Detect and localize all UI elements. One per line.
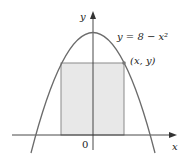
point-label: (x, y) <box>130 55 156 66</box>
y-axis-arrow-icon <box>90 11 96 19</box>
x-axis-label: x <box>172 141 178 152</box>
curve-label: y = 8 − x² <box>116 31 168 42</box>
point-marker <box>122 61 126 65</box>
graph-canvas: y x 0 y = 8 − x² (x, y) <box>0 0 186 160</box>
inscribed-rectangle <box>61 63 124 135</box>
y-axis-label: y <box>79 11 86 22</box>
x-axis-arrow-icon <box>169 132 177 138</box>
origin-label: 0 <box>82 139 88 150</box>
